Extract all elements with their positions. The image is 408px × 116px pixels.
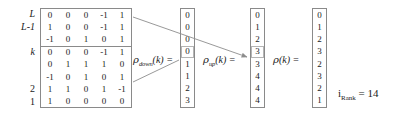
matrix-cell: 0: [113, 97, 131, 106]
vector-cell: 2: [313, 34, 326, 46]
vector-cell: 1: [251, 21, 264, 33]
matrix-cell: -1: [113, 85, 131, 94]
matrix-cell: 0: [59, 35, 77, 44]
matrix-cell: 1: [77, 73, 95, 82]
matrix-cell: 0: [59, 48, 77, 57]
irank-subscript: Rank: [341, 94, 356, 102]
vector-cell: 4: [251, 83, 264, 95]
matrix-cell: 0: [77, 48, 95, 57]
matrix-row-labels: L L-1 k 2 1: [10, 8, 36, 108]
matrix-block-lower: 0 0 0 -1 1 0 1 1 1 0 -1 0 1 0 1 1: [41, 47, 131, 108]
vector-cell: 1: [181, 70, 194, 82]
rho-up-vector: 0 1 2 3 3 4 4 4: [250, 8, 265, 108]
vector-cell: 0: [181, 21, 194, 33]
vector-cell: 3: [313, 70, 326, 82]
matrix-cell: 1: [77, 60, 95, 69]
matrix-cell: 0: [77, 85, 95, 94]
matrix-cell: 0: [41, 60, 59, 69]
vector-cell: 2: [313, 83, 326, 95]
matrix-cell: 0: [59, 73, 77, 82]
vector-cell: 2: [313, 58, 326, 70]
row-label-k: k: [10, 46, 36, 59]
matrix-cell: 0: [59, 23, 77, 32]
matrix-cell: 1: [95, 85, 113, 94]
matrix-cell: 0: [41, 48, 59, 57]
matrix-cell: 0: [95, 97, 113, 106]
row-label-blank-1: [10, 33, 36, 46]
matrix-cell: 1: [59, 60, 77, 69]
row-label-2: 2: [10, 83, 36, 96]
rho-down-label: ρdown(k) =: [133, 55, 173, 68]
matrix-cell: 1: [113, 48, 131, 57]
matrix-row: 0 1 1 1 0: [41, 59, 131, 71]
vector-cell: 3: [313, 46, 326, 58]
vector-cell-highlighted: 0: [181, 46, 194, 58]
vector-cell: 2: [251, 34, 264, 46]
rho-argument: (k) =: [279, 54, 299, 65]
vector-cell: 4: [251, 95, 264, 107]
matrix-cell: 1: [113, 35, 131, 44]
matrix-row: -1 0 1 0 1: [41, 33, 131, 45]
matrix-cell: 1: [41, 97, 59, 106]
row-label-1: 1: [10, 96, 36, 109]
vector-cell-highlighted: 3: [251, 46, 264, 58]
matrix-cell: 0: [59, 97, 77, 106]
matrix-cell: 0: [59, 11, 77, 20]
matrix-row: 0 0 0 -1 1: [41, 47, 131, 59]
matrix-row: -1 0 1 0 1: [41, 71, 131, 83]
matrix-cell: 0: [41, 11, 59, 20]
matrix-cell: 1: [77, 35, 95, 44]
matrix-cell: -1: [95, 23, 113, 32]
vector-cell: 0: [181, 34, 194, 46]
vector-cell: 0: [313, 9, 326, 21]
rho-up-label: ρup(k) =: [203, 55, 236, 68]
rho-label: ρ(k) =: [273, 55, 299, 68]
matrix-cell: 0: [95, 35, 113, 44]
rho-vector: 0 1 2 3 2 3 2 1: [312, 8, 327, 108]
vector-cell: 4: [251, 70, 264, 82]
row-label-blank-3: [10, 71, 36, 84]
irank-annotation: iRank = 14: [338, 88, 379, 102]
rho-argument: (k) =: [215, 54, 235, 65]
matrix-cell: -1: [41, 35, 59, 44]
irank-value: 14: [368, 87, 379, 99]
matrix-cell: 1: [41, 23, 59, 32]
matrix-row: 1 0 0 -1 1: [41, 21, 131, 33]
coefficient-matrix: 0 0 0 -1 1 1 0 0 -1 1 -1 0 1 0 1: [40, 8, 132, 108]
vector-cell: 0: [251, 9, 264, 21]
matrix-row: 0 0 0 -1 1: [41, 9, 131, 21]
matrix-cell: 1: [113, 23, 131, 32]
vector-cell: 1: [181, 58, 194, 70]
matrix-cell: -1: [95, 48, 113, 57]
row-label-blank-2: [10, 58, 36, 71]
row-label-L: L: [10, 8, 36, 21]
matrix-row: 1 0 0 0 0: [41, 95, 131, 107]
rho-argument: (k) =: [153, 54, 173, 65]
rho-subscript: down: [139, 60, 153, 67]
matrix-cell: 0: [113, 60, 131, 69]
irank-equals: =: [359, 87, 365, 99]
matrix-cell: 1: [41, 85, 59, 94]
matrix-cell: 0: [77, 97, 95, 106]
matrix-cell: -1: [41, 73, 59, 82]
vector-cell: 3: [251, 58, 264, 70]
matrix-cell: 1: [95, 60, 113, 69]
vector-cell: 1: [313, 95, 326, 107]
matrix-block-upper: 0 0 0 -1 1 1 0 0 -1 1 -1 0 1 0 1: [41, 9, 131, 47]
vector-cell: 1: [313, 21, 326, 33]
matrix-cell: -1: [95, 11, 113, 20]
figure-canvas: L L-1 k 2 1 0 0 0 -1 1 1 0 0 -1 1: [0, 0, 408, 116]
row-label-L-minus-1: L-1: [10, 21, 36, 34]
matrix-cell: 1: [113, 11, 131, 20]
vector-cell: 3: [181, 95, 194, 107]
matrix-cell: 0: [77, 11, 95, 20]
matrix-cell: 0: [77, 23, 95, 32]
vector-cell: 2: [181, 83, 194, 95]
vector-cell: 0: [181, 9, 194, 21]
matrix-cell: 0: [95, 73, 113, 82]
rho-down-vector: 0 0 0 0 1 1 2 3: [180, 8, 195, 108]
matrix-cell: 1: [59, 85, 77, 94]
matrix-row: 1 1 0 1 -1: [41, 83, 131, 95]
matrix-cell: 1: [113, 73, 131, 82]
